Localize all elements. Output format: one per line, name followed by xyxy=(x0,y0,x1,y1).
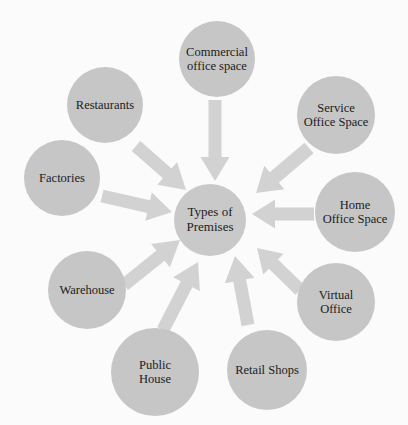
node-public-house: Public House xyxy=(111,328,199,416)
node-commercial-office-space: Commercial office space xyxy=(179,21,255,97)
arrow-retail-shops xyxy=(225,256,255,326)
node-virtual-office: Virtual Office xyxy=(297,263,375,341)
arrow-virtual-office xyxy=(257,248,305,295)
node-label-restaurants: Restaurants xyxy=(73,98,137,112)
node-label-warehouse: Warehouse xyxy=(56,283,117,297)
node-service-office-space: Service Office Space xyxy=(297,76,375,154)
node-label-factories: Factories xyxy=(36,171,88,185)
arrow-factories xyxy=(101,190,172,221)
arrow-warehouse xyxy=(120,240,180,290)
center-node: Types of Premises xyxy=(174,184,246,256)
arrow-commercial-office-space xyxy=(201,100,230,181)
node-home-office-space: Home Office Space xyxy=(315,172,395,252)
arrow-service-office-space xyxy=(256,143,314,193)
arrow-restaurants xyxy=(132,141,186,190)
node-label-commercial-office-space: Commercial office space xyxy=(183,45,251,73)
center-node-label: Types of Premises xyxy=(184,205,237,234)
node-warehouse: Warehouse xyxy=(48,251,126,329)
node-factories: Factories xyxy=(24,140,100,216)
node-label-retail-shops: Retail Shops xyxy=(232,363,302,377)
concept-diagram: Commercial office spaceService Office Sp… xyxy=(0,0,408,425)
node-label-virtual-office: Virtual Office xyxy=(316,288,357,316)
arrow-public-house xyxy=(157,262,200,333)
node-label-service-office-space: Service Office Space xyxy=(301,101,372,129)
node-label-public-house: Public House xyxy=(136,358,174,386)
arrow-home-office-space xyxy=(252,200,314,229)
node-retail-shops: Retail Shops xyxy=(227,330,307,410)
node-label-home-office-space: Home Office Space xyxy=(320,198,391,226)
node-restaurants: Restaurants xyxy=(67,67,143,143)
